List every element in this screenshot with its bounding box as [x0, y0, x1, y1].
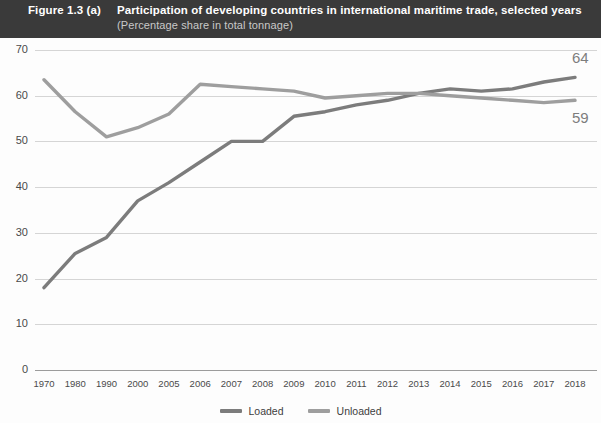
legend-label-unloaded: Unloaded [337, 405, 382, 417]
x-tick-2018: 2018 [555, 378, 595, 389]
plot-area: 010203040506070 64 59 [0, 38, 601, 383]
legend-item-unloaded[interactable]: Unloaded [308, 405, 382, 417]
legend-item-loaded[interactable]: Loaded [220, 405, 284, 417]
chart-lines [0, 38, 601, 383]
figure-title: Participation of developing countries in… [117, 4, 582, 16]
line-unloaded [44, 80, 575, 137]
figure-subtitle: (Percentage share in total tonnage) [117, 19, 293, 31]
end-label-loaded: 64 [572, 49, 589, 66]
figure-header: Figure 1.3 (a) Participation of developi… [0, 0, 601, 38]
legend-swatch-unloaded [308, 409, 330, 413]
legend-swatch-loaded [220, 409, 242, 413]
end-label-unloaded: 59 [572, 109, 589, 126]
chart-legend: LoadedUnloaded [0, 402, 601, 420]
figure-number: Figure 1.3 (a) [28, 4, 101, 16]
line-loaded [44, 77, 575, 287]
figure-container: Figure 1.3 (a) Participation of developi… [0, 0, 601, 423]
x-axis-labels: 1970198019902000200520062007200820092010… [0, 378, 601, 394]
legend-label-loaded: Loaded [249, 405, 284, 417]
